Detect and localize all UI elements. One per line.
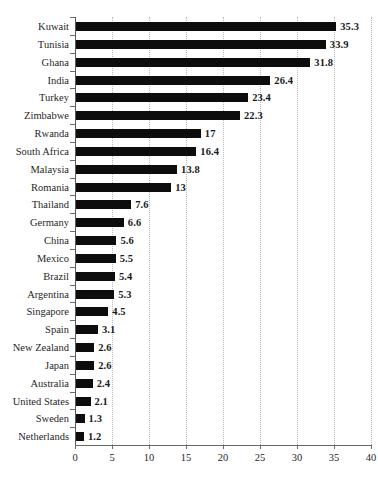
bar-value-label: 4.5 [112, 302, 125, 321]
bar-zimbabwe [75, 111, 240, 120]
bar-row: 5.3 [75, 285, 371, 304]
bar-row: 33.9 [75, 35, 371, 54]
bar-value-label: 33.9 [330, 35, 349, 54]
bar-value-label: 13 [175, 178, 186, 197]
bar-spain [75, 325, 98, 334]
category-label-japan: Japan [0, 356, 69, 375]
bar-india [75, 76, 270, 85]
y-tick [70, 338, 75, 339]
x-tick-label-35: 35 [314, 452, 354, 463]
bar-netherlands [75, 432, 84, 441]
bar-value-label: 22.3 [244, 106, 263, 125]
bar-value-label: 1.3 [89, 409, 102, 428]
bar-row: 5.6 [75, 231, 371, 250]
bar-value-label: 5.6 [120, 231, 133, 250]
bar-row: 13.8 [75, 160, 371, 179]
bar-row: 22.3 [75, 106, 371, 125]
category-label-australia: Australia [0, 374, 69, 393]
x-tick-15 [186, 445, 187, 449]
bar-thailand [75, 200, 131, 209]
bar-row: 1.2 [75, 427, 371, 446]
bar-value-label: 31.8 [314, 53, 333, 72]
bar-row: 5.4 [75, 267, 371, 286]
bar-row: 2.4 [75, 374, 371, 393]
category-label-romania: Romania [0, 178, 69, 197]
bar-united-states [75, 397, 91, 406]
bar-row: 3.1 [75, 320, 371, 339]
bar-singapore [75, 307, 108, 316]
y-tick [70, 409, 75, 410]
x-tick-label-15: 15 [166, 452, 206, 463]
y-tick [70, 160, 75, 161]
plot-area: 35.333.931.826.423.422.31716.413.8137.66… [75, 17, 371, 445]
category-label-malaysia: Malaysia [0, 160, 69, 179]
bar-value-label: 26.4 [274, 71, 293, 90]
category-label-united-states: United States [0, 392, 69, 411]
bar-row: 2.6 [75, 338, 371, 357]
y-tick [70, 17, 75, 18]
bar-sweden [75, 414, 85, 423]
category-label-singapore: Singapore [0, 302, 69, 321]
bar-value-label: 7.6 [135, 195, 148, 214]
bar-row: 26.4 [75, 71, 371, 90]
y-axis-line [75, 17, 76, 445]
x-tick-0 [75, 445, 76, 449]
bar-tunisia [75, 40, 326, 49]
bar-value-label: 23.4 [252, 88, 271, 107]
y-tick [70, 392, 75, 393]
bar-value-label: 5.4 [119, 267, 132, 286]
bar-row: 16.4 [75, 142, 371, 161]
bar-row: 2.1 [75, 392, 371, 411]
bar-ghana [75, 58, 310, 67]
y-tick [70, 71, 75, 72]
bar-row: 6.6 [75, 213, 371, 232]
bar-value-label: 5.3 [118, 285, 131, 304]
x-tick-label-10: 10 [129, 452, 169, 463]
y-tick [70, 356, 75, 357]
category-label-thailand: Thailand [0, 195, 69, 214]
category-label-ghana: Ghana [0, 53, 69, 72]
category-label-zimbabwe: Zimbabwe [0, 106, 69, 125]
category-label-turkey: Turkey [0, 88, 69, 107]
bar-south-africa [75, 147, 196, 156]
y-tick [70, 178, 75, 179]
x-tick-label-30: 30 [277, 452, 317, 463]
category-label-india: India [0, 71, 69, 90]
x-tick-label-0: 0 [55, 452, 95, 463]
bar-value-label: 2.6 [98, 356, 111, 375]
gridline-40 [371, 17, 372, 445]
bar-value-label: 16.4 [200, 142, 219, 161]
y-tick [70, 427, 75, 428]
bar-value-label: 17 [205, 124, 216, 143]
category-label-germany: Germany [0, 213, 69, 232]
y-tick [70, 142, 75, 143]
bar-kuwait [75, 22, 336, 31]
bar-japan [75, 361, 94, 370]
category-label-rwanda: Rwanda [0, 124, 69, 143]
y-tick [70, 35, 75, 36]
bar-value-label: 2.4 [97, 374, 110, 393]
category-label-brazil: Brazil [0, 267, 69, 286]
x-tick-40 [371, 445, 372, 449]
bar-brazil [75, 272, 115, 281]
category-label-argentina: Argentina [0, 285, 69, 304]
bar-value-label: 13.8 [181, 160, 200, 179]
y-tick [70, 106, 75, 107]
category-label-china: China [0, 231, 69, 250]
category-label-sweden: Sweden [0, 409, 69, 428]
y-tick [70, 213, 75, 214]
y-tick [70, 320, 75, 321]
bar-argentina [75, 290, 114, 299]
bar-row: 31.8 [75, 53, 371, 72]
y-tick [70, 267, 75, 268]
x-tick-label-40: 40 [351, 452, 378, 463]
bar-row: 13 [75, 178, 371, 197]
bar-row: 1.3 [75, 409, 371, 428]
category-label-spain: Spain [0, 320, 69, 339]
bar-value-label: 6.6 [128, 213, 141, 232]
x-tick-20 [223, 445, 224, 449]
category-label-kuwait: Kuwait [0, 17, 69, 36]
bar-value-label: 1.2 [88, 427, 101, 446]
category-label-netherlands: Netherlands [0, 427, 69, 446]
bar-chart: 35.333.931.826.423.422.31716.413.8137.66… [0, 0, 378, 481]
